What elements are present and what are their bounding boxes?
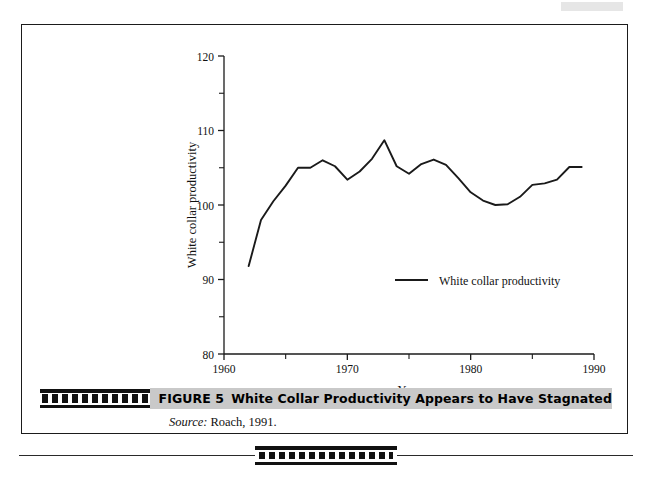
y-tick-label: 120 <box>197 51 215 63</box>
x-tick-label: 1980 <box>459 363 482 375</box>
x-tick-label: 1960 <box>213 363 236 375</box>
x-tick-label: 1990 <box>583 363 606 375</box>
figure-caption-bar: FIGURE 5 White Collar Productivity Appea… <box>150 388 612 409</box>
source-text: Roach, 1991. <box>210 415 276 429</box>
y-tick-label: 90 <box>203 274 215 286</box>
source-label: Source: <box>169 415 207 429</box>
figure-source: Source:Roach, 1991. <box>169 415 277 430</box>
data-line-white-collar-productivity <box>249 140 582 266</box>
y-axis-label: White collar productivity <box>185 141 199 268</box>
figure-title: White Collar Productivity Appears to Hav… <box>231 391 612 406</box>
y-tick-label: 100 <box>197 200 215 212</box>
figure-number: FIGURE 5 <box>159 391 225 406</box>
y-tick-label: 110 <box>197 125 214 137</box>
y-tick-label: 80 <box>203 349 215 361</box>
x-tick-label: 1970 <box>336 363 359 375</box>
caption-ornament-icon <box>40 388 150 409</box>
page-bottom-ornament-icon <box>255 446 397 465</box>
legend-label: White collar productivity <box>439 274 560 288</box>
figure-caption-row: FIGURE 5 White Collar Productivity Appea… <box>40 388 612 409</box>
